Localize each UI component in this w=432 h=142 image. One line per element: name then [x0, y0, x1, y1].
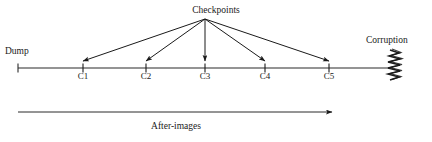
dump-label: Dump: [5, 47, 29, 57]
checkpoint-label-c4: C4: [245, 72, 285, 81]
checkpoint-label-c1: C1: [63, 72, 103, 81]
checkpoint-label-c3: C3: [185, 72, 225, 81]
diagram-canvas: Checkpoints Dump Corruption After-images…: [0, 0, 432, 142]
corruption-zigzag-icon: [388, 49, 402, 80]
checkpoints-label: Checkpoints: [0, 6, 432, 16]
checkpoint-label-c5: C5: [309, 72, 349, 81]
checkpoint-arrow-c2: [146, 19, 205, 61]
diagram-vector-layer: [0, 0, 432, 142]
after-images-label: After-images: [0, 122, 352, 132]
checkpoint-arrow-group: [83, 19, 329, 61]
checkpoint-arrow-c5: [205, 19, 329, 61]
checkpoint-arrow-c1: [83, 19, 205, 61]
checkpoint-arrow-c4: [205, 19, 265, 61]
corruption-label: Corruption: [366, 36, 408, 46]
checkpoint-label-c2: C2: [126, 72, 166, 81]
